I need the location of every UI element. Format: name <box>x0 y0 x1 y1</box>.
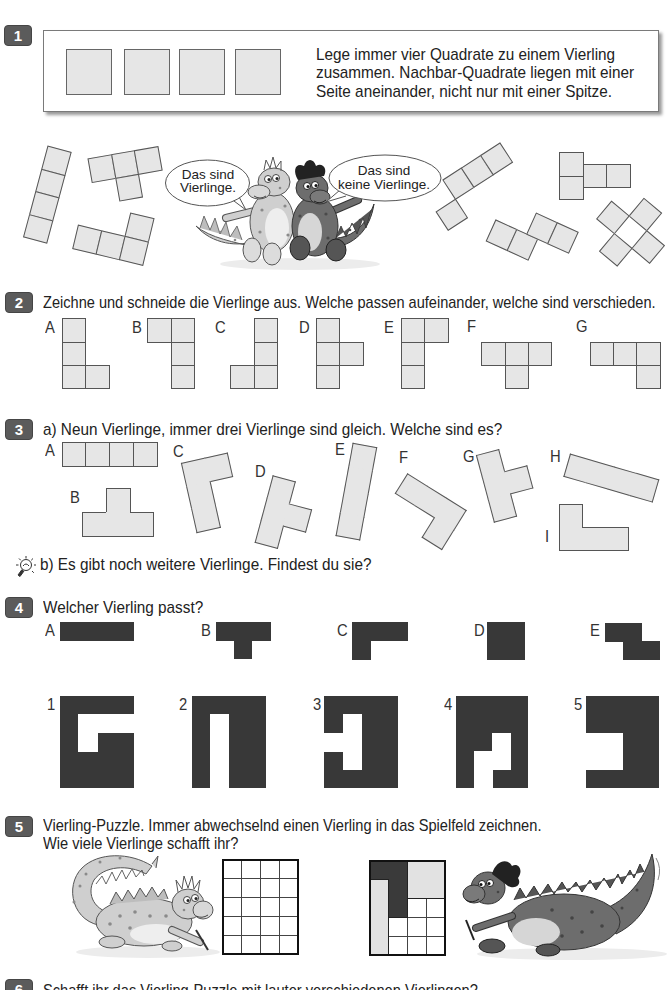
tetromino-cell <box>78 622 97 641</box>
hole-cell <box>474 751 493 770</box>
tetromino-cell <box>401 318 425 342</box>
hole-cell <box>78 733 97 752</box>
vierling-d <box>255 475 317 554</box>
tetromino-cell <box>481 342 505 366</box>
hole-cell <box>604 733 623 752</box>
hole-cell <box>343 714 362 733</box>
bubble-text: keine Vierlinge. <box>338 177 430 192</box>
hole-cell <box>210 751 229 770</box>
hole-cell <box>324 733 343 752</box>
definition-text-line: Seite aneinander, nicht nur mit einer Sp… <box>316 82 612 102</box>
tetromino-cell <box>487 641 506 660</box>
exercise-number-badge: 1 <box>4 25 32 46</box>
shape-label: B <box>70 488 80 508</box>
tetromino-cell <box>115 622 134 641</box>
placed-piece-cell <box>369 917 389 937</box>
vierling-g <box>476 443 538 522</box>
tetromino-cell <box>559 152 584 177</box>
tetromino-cell <box>216 622 235 641</box>
grid-cell <box>279 897 299 917</box>
placed-piece-cell <box>407 860 427 880</box>
frame-number: 2 <box>179 695 187 715</box>
tetromino-cell <box>506 622 525 641</box>
tetromino-cell <box>352 641 371 660</box>
cutout-frame-3 <box>324 696 398 789</box>
hole-cell <box>604 751 623 770</box>
cutout-frame-1 <box>60 696 135 789</box>
tetromino-cell <box>623 623 642 642</box>
tetromino-cell <box>424 318 448 342</box>
tetromino-cell <box>171 365 195 389</box>
tetromino-cell <box>605 527 629 551</box>
grid-cell <box>388 936 408 956</box>
tetromino-cell <box>97 622 116 641</box>
exercise-number-badge: 5 <box>5 816 33 837</box>
dark-piece-e <box>605 623 660 659</box>
tetromino-cell <box>401 365 425 389</box>
shape-label: E <box>384 318 394 338</box>
shape-label: H <box>550 447 561 467</box>
placed-piece-cell <box>426 879 446 899</box>
placed-piece-cell <box>388 860 408 880</box>
shape-label: C <box>215 318 226 338</box>
speech-bubble-left: Das sind Vierlinge. <box>166 160 250 210</box>
exercise-instruction: Welcher Vierling passt? <box>43 598 203 618</box>
shape-label: F <box>467 317 476 337</box>
exercise-number-badge: 6 <box>5 979 33 990</box>
hole-cell <box>492 733 511 752</box>
grid-cell <box>426 936 446 956</box>
tetromino-cell <box>623 641 642 660</box>
vierling-h <box>564 453 659 501</box>
vierling-e <box>401 318 448 388</box>
tetromino-cell <box>62 318 86 342</box>
tetromino-cell <box>316 365 340 389</box>
grid-cell <box>279 878 299 898</box>
placed-piece-cell <box>369 936 389 956</box>
frame-number: 3 <box>313 695 321 715</box>
tetromino-cell <box>23 214 53 244</box>
frame-number: 4 <box>444 695 452 715</box>
tetromino-cell <box>106 488 131 513</box>
vierling-c <box>181 453 242 532</box>
grid-cell <box>426 917 446 937</box>
hole-cell <box>343 733 362 752</box>
valid-vierling-i <box>23 146 70 243</box>
tetromino-cell <box>255 519 284 548</box>
hole-cell <box>210 714 229 733</box>
tetromino-cell <box>636 365 660 389</box>
tetromino-cell <box>62 365 86 389</box>
tetromino-cell <box>505 342 529 366</box>
placed-piece-cell <box>369 898 389 918</box>
placed-piece-cell <box>369 879 389 899</box>
tetromino-cell <box>171 318 195 342</box>
hole-cell <box>474 770 493 789</box>
grid-cell <box>241 897 261 917</box>
tetromino-cell <box>505 365 529 389</box>
tetromino-cell <box>254 318 278 342</box>
grid-cell <box>407 917 427 937</box>
shape-label: D <box>255 462 266 482</box>
grid-cell <box>241 878 261 898</box>
dark-piece-b <box>216 622 271 658</box>
tetromino-cell <box>130 512 155 537</box>
tetromino-cell <box>109 442 134 467</box>
grid-cell <box>222 859 242 879</box>
dragons-illustration: Das sind Vierlinge. Das sind keine Vierl… <box>160 140 450 275</box>
tetromino-cell <box>504 465 533 494</box>
grid-cell <box>241 916 261 936</box>
tetromino-cell <box>106 512 131 537</box>
shape-label: A <box>45 441 55 461</box>
tetromino-cell <box>631 230 665 264</box>
tetromino-cell <box>389 622 408 641</box>
tetromino-cell <box>204 453 233 482</box>
tetromino-cell <box>133 442 158 467</box>
tetromino-cell <box>191 504 220 533</box>
definition-text-line: zusammen. Nachbar-Quadrate liegen mit ei… <box>316 63 634 83</box>
piece-label: B <box>201 621 211 641</box>
tetromino-cell <box>636 342 660 366</box>
exercise-number-badge: 2 <box>5 292 33 313</box>
shape-label: G <box>463 447 475 467</box>
speech-bubble-right: Das sind keine Vierlinge. <box>326 155 441 202</box>
square-tile <box>124 49 170 95</box>
piece-label: E <box>590 621 600 641</box>
